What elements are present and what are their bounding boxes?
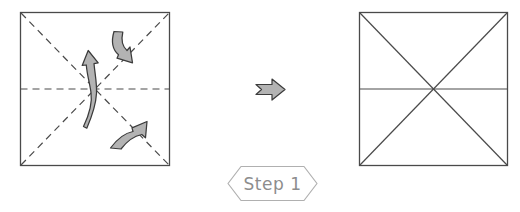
right-arrow-icon bbox=[256, 79, 285, 100]
before-panel-group bbox=[21, 13, 170, 166]
origami-diagram-figure: Step 1 bbox=[0, 0, 520, 212]
step-banner: Step 1 bbox=[228, 167, 317, 201]
transition-arrow-group bbox=[256, 79, 285, 100]
after-panel-group bbox=[360, 13, 508, 166]
step-banner-label: Step 1 bbox=[244, 174, 302, 194]
origami-diagram-canvas: Step 1 bbox=[0, 0, 520, 212]
